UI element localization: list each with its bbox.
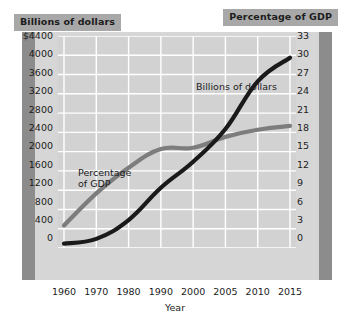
ticks-left-label: 2000 xyxy=(29,142,53,152)
vertical-gridlines xyxy=(64,36,290,248)
x-axis-ticks: 19601970198019902000200520102015 xyxy=(58,286,296,298)
x-axis-tick-label: 1960 xyxy=(52,286,76,297)
ticks-left-label: 2800 xyxy=(29,105,53,115)
ticks-right-label: 24 xyxy=(297,86,309,96)
x-axis-tick-label: 1980 xyxy=(116,286,140,297)
ticks-right-label: 3 xyxy=(297,215,303,225)
chart-figure: Billions of dollars Percentage of GDP $4… xyxy=(0,0,350,323)
ticks-right-label: 27 xyxy=(297,68,309,78)
series-annotation-billions-of-dollars: Billions of dollars xyxy=(196,82,277,93)
ticks-left-label: 3200 xyxy=(29,86,53,96)
ticks-left-label: $4400 xyxy=(23,31,53,41)
x-axis-title: Year xyxy=(0,302,350,313)
x-axis-tick-label: 1990 xyxy=(149,286,173,297)
x-axis-tick-label: 2005 xyxy=(213,286,237,297)
ticks-left-label: 1600 xyxy=(29,160,53,170)
right-axis-banner: Percentage of GDP xyxy=(223,9,338,26)
ticks-right-label: 21 xyxy=(297,105,309,115)
ticks-left-label: 400 xyxy=(35,215,53,225)
ticks-left-label: 0 xyxy=(47,234,53,244)
ticks-left-label: 1200 xyxy=(29,179,53,189)
ticks-right-label: 9 xyxy=(297,179,303,189)
ticks-right-label: 15 xyxy=(297,142,309,152)
x-axis-tick-label: 1970 xyxy=(84,286,108,297)
right-axis-ticks: 33302724211815129630 xyxy=(293,36,337,248)
ticks-right-label: 6 xyxy=(297,197,303,207)
series-annotation-percentage-of-gdp: Percentage of GDP xyxy=(78,168,131,190)
ticks-right-label: 18 xyxy=(297,123,309,133)
left-axis-ticks: $440040003600320028002400200016001200800… xyxy=(13,36,56,248)
ticks-left-label: 2400 xyxy=(29,123,53,133)
ticks-right-label: 33 xyxy=(297,31,309,41)
plot-area xyxy=(58,36,296,248)
x-axis-tick-label: 2010 xyxy=(246,286,270,297)
x-axis-tick-label: 2000 xyxy=(181,286,205,297)
ticks-left-label: 4000 xyxy=(29,50,53,60)
left-axis-banner: Billions of dollars xyxy=(14,14,121,31)
ticks-left-label: 3600 xyxy=(29,68,53,78)
ticks-right-label: 12 xyxy=(297,160,309,170)
ticks-left-label: 800 xyxy=(35,197,53,207)
plot-svg xyxy=(58,36,296,248)
horizontal-gridlines xyxy=(58,36,296,248)
ticks-right-label: 0 xyxy=(297,234,303,244)
ticks-right-label: 30 xyxy=(297,50,309,60)
x-axis-tick-label: 2015 xyxy=(278,286,302,297)
